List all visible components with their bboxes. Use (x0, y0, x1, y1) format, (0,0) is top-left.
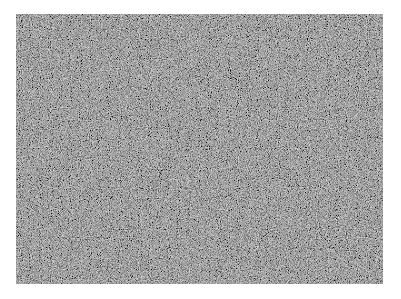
image-canvas (0, 0, 401, 299)
noise-texture (16, 14, 383, 284)
noise-pattern (16, 14, 383, 284)
